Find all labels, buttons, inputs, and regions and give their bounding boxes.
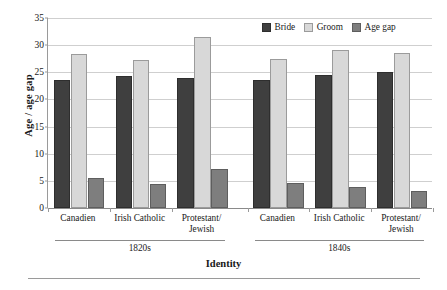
- y-axis-tick-label: 5: [39, 176, 44, 186]
- y-axis-tick-label: 10: [35, 149, 45, 159]
- legend-label: Bride: [275, 22, 296, 32]
- bar-bride: [377, 72, 394, 208]
- x-axis-category-label: Canadien: [47, 213, 109, 224]
- bar-groom: [270, 59, 287, 208]
- x-axis-category-label: Protestant/Jewish: [370, 213, 432, 235]
- x-axis-tickmark: [433, 208, 434, 212]
- chart-legend: BrideGroomAge gap: [262, 22, 396, 32]
- y-axis-tick-label: 35: [35, 13, 45, 23]
- legend-item-gap: Age gap: [352, 22, 396, 32]
- x-axis-category-label: Canadien: [247, 213, 309, 224]
- legend-swatch-icon: [304, 23, 313, 32]
- x-axis-category-label: Protestant/Jewish: [171, 213, 233, 235]
- gridline: [48, 208, 432, 209]
- x-axis-category-label: Irish Catholic: [308, 213, 370, 224]
- bar-age-gap: [411, 191, 428, 208]
- y-axis-tick-label: 0: [39, 203, 44, 213]
- bar-bride: [253, 80, 270, 208]
- bar-bride: [116, 76, 133, 208]
- legend-swatch-icon: [262, 23, 271, 32]
- x-axis-tickmark: [371, 208, 372, 212]
- bar-bride: [54, 80, 71, 208]
- bar-age-gap: [88, 178, 105, 208]
- y-axis-tick-label: 25: [35, 67, 45, 77]
- bar-series-layer: [48, 18, 432, 208]
- x-axis-tickmark: [248, 208, 249, 212]
- bar-bride: [177, 78, 194, 208]
- group-label: 1840s: [255, 243, 425, 253]
- bar-bride: [315, 75, 332, 208]
- x-axis-tickmark: [172, 208, 173, 212]
- x-axis-tickmark: [110, 208, 111, 212]
- legend-label: Age gap: [365, 22, 396, 32]
- x-axis-title: Identity: [0, 258, 447, 269]
- bar-groom: [194, 37, 211, 208]
- x-axis-tickmark: [48, 208, 49, 212]
- bar-groom: [332, 50, 349, 209]
- legend-item-bride: Bride: [262, 22, 295, 32]
- x-axis-tickmark: [309, 208, 310, 212]
- bar-groom: [133, 60, 150, 208]
- group-rule: [55, 240, 225, 241]
- bar-chart-figure: Age / age gap 05101520253035 CanadienIri…: [0, 0, 447, 290]
- y-axis-tick-label: 30: [35, 40, 45, 50]
- bar-groom: [394, 53, 411, 208]
- plot-area: 05101520253035: [47, 18, 432, 208]
- bar-age-gap: [211, 169, 228, 208]
- legend-item-groom: Groom: [304, 22, 343, 32]
- footer-divider: [28, 278, 420, 279]
- y-axis-tick-label: 20: [35, 94, 45, 104]
- y-axis-title: Age / age gap: [23, 46, 34, 166]
- bar-groom: [71, 54, 88, 208]
- group-rule: [255, 240, 425, 241]
- y-axis-tick-label: 15: [35, 122, 45, 132]
- bar-age-gap: [349, 187, 366, 208]
- legend-swatch-icon: [352, 23, 361, 32]
- x-axis-category-label: Irish Catholic: [109, 213, 171, 224]
- bar-age-gap: [287, 183, 304, 208]
- bar-age-gap: [150, 184, 167, 208]
- group-label: 1820s: [55, 243, 225, 253]
- legend-label: Groom: [317, 22, 343, 32]
